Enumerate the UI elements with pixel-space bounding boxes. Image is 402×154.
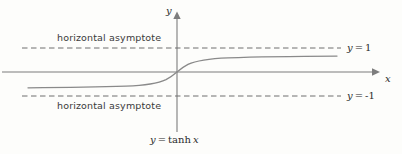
asymptote-value-bottom: y=-1 [347,91,375,101]
y-axis-label: y [166,6,172,16]
asymptote-value-top-rhs: 1 [365,42,371,53]
function-label: y=tanhx [150,135,199,145]
function-label-rhs: tanh [168,134,191,145]
x-axis-label: x [385,74,391,84]
asymptote-label-top: horizontal asymptote [57,33,161,43]
asymptote-value-bottom-lhs: y [347,90,353,101]
function-label-rel: = [158,134,166,145]
graph-canvas [0,0,402,154]
asymptote-value-bottom-rel: = [355,90,363,101]
tanh-graph-figure: y x horizontal asymptote horizontal asym… [0,0,402,154]
asymptote-value-top-rel: = [355,42,363,53]
asymptote-value-top-lhs: y [347,42,353,53]
function-label-var: x [193,134,199,145]
x-axis [2,68,380,76]
function-label-lhs: y [150,134,156,145]
asymptote-value-top: y=1 [347,43,371,53]
asymptote-label-bottom: horizontal asymptote [57,101,161,111]
asymptote-value-bottom-rhs: -1 [365,90,375,101]
